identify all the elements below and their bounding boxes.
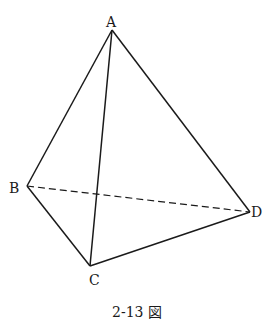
- tetrahedron-diagram: A B C D 2-13 図: [0, 0, 273, 327]
- figure-caption: 2-13 図: [112, 304, 162, 320]
- edge-bc: [27, 186, 90, 266]
- vertex-label-b: B: [9, 180, 19, 196]
- edge-bd-hidden: [27, 186, 250, 212]
- vertex-label-a: A: [105, 14, 117, 30]
- vertex-label-c: C: [89, 272, 100, 288]
- vertex-label-d: D: [251, 204, 262, 220]
- edge-cd: [90, 212, 250, 266]
- edge-ad: [112, 30, 250, 212]
